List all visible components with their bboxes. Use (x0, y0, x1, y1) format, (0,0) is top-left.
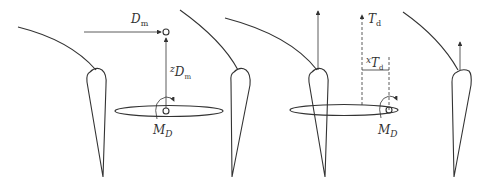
airfoil-4 (452, 70, 471, 177)
diagram-canvas: Dm zDm MD Td xTd MD (0, 0, 487, 190)
moment-label-2: MD (378, 124, 398, 139)
disk-2 (290, 105, 398, 116)
airfoil-1 (87, 68, 106, 177)
drag-label: Dm (131, 13, 148, 28)
arm-x-label: xTd (366, 56, 384, 72)
airfoil-2 (231, 68, 250, 177)
blade-curve-1 (18, 27, 96, 70)
drag-point (163, 29, 169, 35)
moment-label-1: MD (153, 124, 173, 139)
thrust-label: Td (368, 13, 381, 28)
diagram-drawing (0, 0, 487, 190)
airfoil-3 (309, 68, 328, 177)
pivot-1 (163, 108, 169, 114)
arm-z-label: zDm (170, 65, 191, 81)
blade-curve-4 (403, 12, 458, 70)
blade-curve-3 (225, 18, 317, 70)
